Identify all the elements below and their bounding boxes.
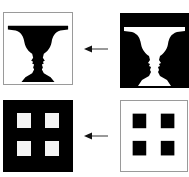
arrow-left-icon — [84, 132, 108, 140]
four-squares-icon — [121, 101, 187, 171]
four-squares-icon — [3, 100, 73, 172]
squares-panel-black-on-white: Four black squares on white — [120, 100, 188, 172]
vase-panel-black-on-white: Vase silhouette (black vase on white) — [3, 12, 73, 85]
arrow-left-icon — [84, 45, 108, 53]
vase-icon — [4, 13, 72, 84]
faces-vase-icon — [120, 13, 189, 88]
vase-panel-white-on-black: Faces-vase illusion (white vase on black… — [120, 13, 189, 88]
squares-panel-white-on-black: Four white squares on black — [3, 100, 73, 172]
